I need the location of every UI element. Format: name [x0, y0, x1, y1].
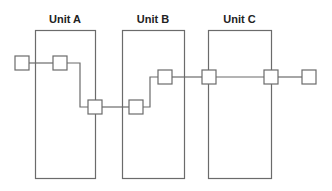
unit-b-label: Unit B — [137, 13, 169, 25]
wire-n4-n5 — [143, 77, 158, 107]
unit-a-label: Unit A — [49, 13, 81, 25]
node-n6 — [202, 70, 216, 84]
nodes-layer — [15, 56, 316, 114]
units-layer — [36, 31, 272, 179]
node-n7 — [264, 70, 278, 84]
node-n5 — [158, 70, 172, 84]
node-n2 — [53, 56, 67, 70]
node-n4 — [129, 100, 143, 114]
unit-c-label: Unit C — [223, 13, 255, 25]
node-n3 — [88, 100, 102, 114]
unit-a-box — [36, 31, 96, 179]
labels-layer: Unit A Unit B Unit C — [49, 13, 256, 25]
wire-n2-n3 — [67, 63, 88, 107]
node-n8 — [302, 70, 316, 84]
unit-c-box — [209, 31, 272, 179]
node-n1 — [15, 56, 29, 70]
unit-chain-diagram: Unit A Unit B Unit C — [0, 0, 332, 191]
